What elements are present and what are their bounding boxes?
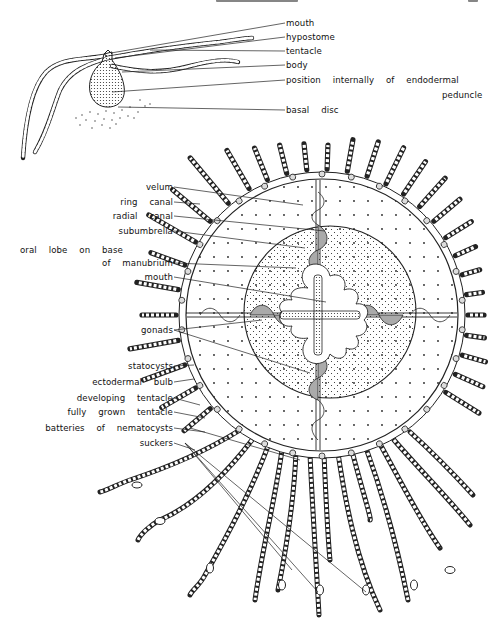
label-polyp-basal-disc: basal disc [286, 105, 339, 115]
label-velum: velum [146, 182, 173, 192]
label-polyp-hypostome: hypostome [286, 32, 335, 42]
label-ring-canal: ring canal [120, 197, 173, 207]
label-oral-lobe-line2: of manubrium [102, 258, 173, 268]
label-suckers: suckers [140, 438, 173, 448]
label-oral-lobe-line1: oral lobe on base [20, 245, 123, 255]
label-ectodermal-bulb: ectodermal bulb [92, 377, 173, 387]
label-polyp-body: body [286, 60, 308, 70]
label-polyp-peduncle-line1: position internally of endodermal [286, 75, 459, 85]
label-subumbrella: subumbrella [119, 226, 173, 236]
label-medusa-mouth: mouth [145, 272, 173, 282]
label-polyp-tentacle: tentacle [286, 46, 322, 56]
label-developing-tentacle: developing tentacle [77, 393, 173, 403]
label-radial-canal: radial canal [113, 211, 173, 221]
label-statocysts: statocysts [128, 361, 173, 371]
label-polyp-mouth: mouth [286, 18, 314, 28]
label-polyp-peduncle-line2: peduncle [442, 90, 482, 100]
label-batteries-of-nematocysts: batteries of nematocysts [45, 423, 173, 433]
diagram-artwork [0, 0, 494, 634]
label-gonads: gonads [141, 325, 173, 335]
label-fully-grown-tentacle: fully grown tentacle [68, 407, 173, 417]
polyp-drawing [23, 23, 285, 158]
figure-page: mouth hypostome tentacle body position i… [0, 0, 494, 634]
